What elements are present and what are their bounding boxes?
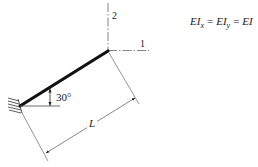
extension-line-top <box>109 53 139 104</box>
axis-1-label: 1 <box>140 38 145 49</box>
formula-term2-sub: y <box>226 21 231 30</box>
fixed-support-icon <box>8 98 22 113</box>
formula-eq2: = <box>233 15 239 27</box>
stiffness-formula: EIx=EIy=EI <box>189 15 254 30</box>
length-label: L <box>88 117 95 129</box>
formula-term1-sub: x <box>199 21 204 30</box>
formula-term3: EI <box>241 15 254 27</box>
beam-diagram: 2 1 30° L EIx=EIy=EI <box>0 0 258 167</box>
axis-2-label: 2 <box>112 10 117 21</box>
svg-text:EIx=EIy=EI: EIx=EIy=EI <box>189 15 254 30</box>
angle-label: 30° <box>56 91 71 103</box>
extension-line-bottom <box>21 111 48 161</box>
formula-eq1: = <box>207 15 213 27</box>
